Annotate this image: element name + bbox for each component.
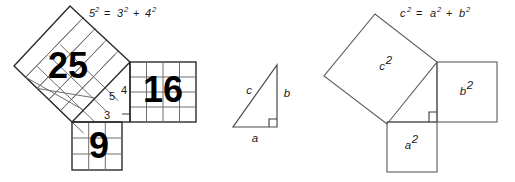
left-side-label-horiz: 3 <box>104 109 110 121</box>
left-panel: 5 2 = 3 2 + 4 2 <box>14 5 196 170</box>
right-equation: c 2 = a 2 + b 2 <box>400 5 471 19</box>
square-c2-exp: 2 <box>385 54 393 66</box>
square-25: 25 <box>14 6 130 133</box>
left-side-label-hyp: 5 <box>109 90 115 102</box>
left-eq-base-a: 3 <box>117 7 124 19</box>
square-9-label: 9 <box>89 125 109 166</box>
square-a2-outline <box>387 122 437 172</box>
left-eq-plus: + <box>133 7 139 19</box>
square-a2-base: a <box>405 139 411 151</box>
left-side-label-vert: 4 <box>121 84 127 96</box>
middle-panel: c b a <box>233 65 291 144</box>
square-25-label: 25 <box>48 45 88 86</box>
square-b2-exp: 2 <box>466 79 474 91</box>
left-eq-exp-c: 2 <box>94 5 100 14</box>
figure-canvas: 5 2 = 3 2 + 4 2 <box>0 0 515 182</box>
right-eq-base-a: a <box>430 7 436 19</box>
right-eq-equals: = <box>416 7 422 19</box>
left-right-angle-marker <box>122 114 130 122</box>
square-a2: a 2 <box>387 122 437 172</box>
square-c2-base: c <box>379 60 385 72</box>
triangle-label-c: c <box>246 84 252 96</box>
right-eq-exp-a: 2 <box>436 5 442 14</box>
right-eq-base-c: c <box>400 7 406 19</box>
square-b2-outline <box>437 62 497 122</box>
triangle-label-b: b <box>284 87 291 99</box>
square-a2-exp: 2 <box>411 133 419 145</box>
left-equation: 5 2 = 3 2 + 4 2 <box>89 5 157 19</box>
left-eq-exp-a: 2 <box>123 5 129 14</box>
left-eq-equals: = <box>104 7 110 19</box>
triangle-abc <box>233 65 277 127</box>
right-eq-exp-b: 2 <box>465 5 471 14</box>
square-b2: b 2 <box>437 62 497 122</box>
triangle-label-a: a <box>252 132 258 144</box>
right-right-angle-marker <box>429 112 437 122</box>
right-eq-plus: + <box>446 7 452 19</box>
pythagorean-figure: 5 2 = 3 2 + 4 2 <box>0 0 515 182</box>
square-c2: c 2 <box>324 14 437 124</box>
left-eq-exp-b: 2 <box>151 5 157 14</box>
square-16: 16 <box>130 62 196 122</box>
square-16-label: 16 <box>143 69 183 110</box>
left-eq-base-b: 4 <box>145 7 151 19</box>
square-b2-base: b <box>460 85 467 97</box>
right-eq-exp-c: 2 <box>406 5 412 14</box>
middle-right-angle-marker <box>269 119 277 127</box>
right-eq-base-b: b <box>459 7 465 19</box>
right-panel: c 2 = a 2 + b 2 c 2 b 2 <box>324 5 497 172</box>
